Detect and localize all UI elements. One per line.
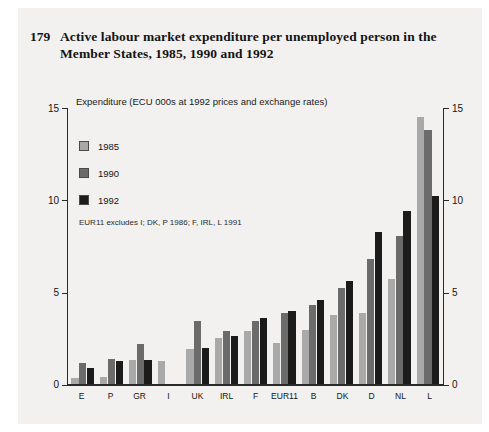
bar-e-1985 [71,378,78,384]
x-axis-label-p: P [96,391,125,401]
bar-irl-1985 [215,338,222,384]
bar-gr-1990 [137,344,144,385]
bar-nl-1985 [388,279,395,384]
y-axis-label-left-15: 15 [35,104,59,114]
x-axis-label-eur11: EUR11 [270,391,299,401]
bar-i-1985 [158,361,165,384]
y-tick-right-15 [444,108,449,109]
x-axis-label-irl: IRL [212,391,241,401]
bar-group-l [414,108,443,384]
y-axis-label-left-5: 5 [35,288,59,298]
bar-uk-1985 [186,349,193,384]
y-axis-label-left-10: 10 [35,196,59,206]
bar-gr-1992 [144,360,151,385]
bar-e-1990 [79,363,86,384]
x-axis-label-e: E [67,391,96,401]
bar-group-p [97,108,126,384]
bar-l-1992 [432,196,439,384]
bar-group-i [155,108,184,384]
x-axis-label-d: D [357,391,386,401]
y-axis-label-left-0: 0 [35,380,59,390]
plot-area: 0 5 10 15 0 5 10 15 1985 1990 1992 EUR11… [67,108,444,386]
x-axis-label-i: I [154,391,183,401]
bar-eur11-1990 [281,313,288,384]
bar-nl-1990 [396,236,403,384]
bar-group-e [68,108,97,384]
x-axis-label-dk: DK [328,391,357,401]
figure-panel: 179 Active labour market expenditure per… [18,8,482,424]
bar-l-1990 [424,130,431,384]
y-tick-left-5 [62,293,67,294]
y-tick-left-0 [62,385,67,386]
x-axis-label-f: F [241,391,270,401]
y-tick-right-10 [444,200,449,201]
bar-uk-1990 [194,321,201,385]
y-axis-right [443,108,444,386]
bar-f-1992 [260,318,267,384]
bar-eur11-1985 [273,343,280,384]
figure-number: 179 [30,28,60,45]
y-tick-right-0 [444,385,449,386]
bar-nl-1992 [403,211,410,384]
x-axis-labels: EPGRIUKIRLFEUR11BDKDNLL [67,391,444,401]
bar-group-irl [212,108,241,384]
bar-b-1990 [309,305,316,384]
bar-group-b [299,108,328,384]
bar-d-1992 [375,232,382,384]
page-title: Active labour market expenditure per une… [60,28,470,62]
bar-e-1992 [87,368,94,385]
x-axis-label-l: L [415,391,444,401]
figure-title-block: 179 Active labour market expenditure per… [30,28,470,62]
x-axis-label-gr: GR [125,391,154,401]
bar-f-1985 [244,331,251,384]
bar-dk-1985 [330,315,337,384]
x-axis-label-nl: NL [386,391,415,401]
bar-d-1990 [367,259,374,384]
bar-f-1990 [252,321,259,385]
bar-p-1990 [108,359,115,385]
bar-irl-1990 [223,331,230,384]
x-axis-label-uk: UK [183,391,212,401]
bar-group-f [241,108,270,384]
y-axis-label-right-0: 0 [452,380,476,390]
x-axis-label-b: B [299,391,328,401]
bar-dk-1992 [346,281,353,384]
y-axis-label-right-5: 5 [452,288,476,298]
bar-group-eur11 [270,108,299,384]
bar-group-nl [385,108,414,384]
bar-b-1985 [302,330,309,384]
bar-series-container [68,108,442,384]
y-axis-label-right-15: 15 [452,104,476,114]
bar-p-1985 [100,377,107,384]
bar-group-d [356,108,385,384]
bar-l-1985 [417,117,424,384]
bar-eur11-1992 [288,311,295,385]
bar-group-gr [126,108,155,384]
bar-d-1985 [359,313,366,384]
bar-dk-1990 [338,288,345,385]
chart-subtitle: Expenditure (ECU 000s at 1992 prices and… [76,96,327,107]
y-tick-left-10 [62,200,67,201]
bar-p-1992 [116,361,123,384]
bar-irl-1992 [231,336,238,385]
bar-b-1992 [317,300,324,385]
bar-gr-1985 [129,360,136,385]
bar-uk-1992 [202,348,209,385]
y-tick-right-5 [444,293,449,294]
x-axis [67,384,444,386]
y-axis-label-right-10: 10 [452,196,476,206]
bar-group-uk [183,108,212,384]
bar-group-dk [327,108,356,384]
y-tick-left-15 [62,108,67,109]
